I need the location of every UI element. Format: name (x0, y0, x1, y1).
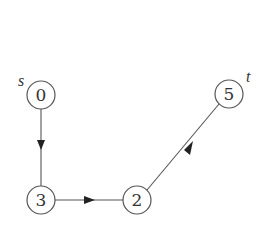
node-label: 2 (132, 190, 143, 210)
path-graph-diagram: 0 3 2 5 s t (0, 0, 267, 234)
edge-3-to-2 (55, 196, 123, 204)
arrowhead-icon (37, 140, 45, 150)
edge-2-to-5 (147, 104, 219, 190)
target-label: t (246, 68, 251, 85)
source-label: s (18, 72, 24, 89)
arrowhead-icon (184, 141, 193, 155)
node-label: 0 (36, 85, 47, 105)
edge-0-to-3 (37, 109, 45, 186)
node-label: 3 (36, 190, 47, 210)
node-0: 0 (27, 81, 55, 109)
node-3: 3 (27, 186, 55, 214)
node-label: 5 (224, 84, 235, 104)
arrowhead-icon (84, 196, 95, 204)
node-5: 5 (215, 80, 243, 108)
node-2: 2 (123, 186, 151, 214)
